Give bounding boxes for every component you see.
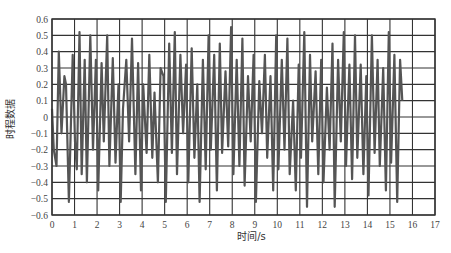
- x-tick-label: 2: [95, 220, 100, 230]
- x-tick-label: 11: [295, 220, 304, 230]
- x-tick-label: 10: [273, 220, 283, 230]
- x-tick-label: 5: [162, 220, 167, 230]
- x-tick-label: 13: [340, 220, 350, 230]
- y-tick-label: 0: [43, 113, 48, 123]
- x-tick-label: 14: [363, 220, 373, 230]
- y-tick-label: −0.1: [31, 129, 48, 139]
- y-tick-label: 0.6: [36, 15, 48, 25]
- y-axis-label: 时程数据: [4, 99, 16, 139]
- x-tick-label: 6: [185, 220, 190, 230]
- y-tick-label: 0.2: [36, 80, 48, 90]
- x-tick-label: 9: [252, 220, 257, 230]
- y-tick-label: 0.3: [36, 64, 48, 74]
- y-tick-label: −0.2: [31, 145, 48, 155]
- y-tick-label: −0.6: [31, 211, 48, 221]
- x-axis-label: 时间/s: [237, 230, 266, 242]
- x-tick-label: 7: [207, 220, 212, 230]
- x-axis-tick-labels: 01234567891011121314151617: [50, 220, 440, 230]
- y-tick-label: 0.5: [36, 31, 48, 41]
- x-tick-label: 17: [430, 220, 440, 230]
- y-tick-label: −0.5: [31, 194, 48, 204]
- x-tick-label: 1: [72, 220, 77, 230]
- x-tick-label: 4: [140, 220, 145, 230]
- y-axis-tick-labels: −0.6−0.5−0.4−0.3−0.2−0.100.10.20.30.40.5…: [31, 15, 48, 221]
- y-tick-label: 0.4: [36, 47, 48, 57]
- x-tick-label: 12: [318, 220, 328, 230]
- x-tick-label: 0: [50, 220, 55, 230]
- x-tick-label: 8: [230, 220, 235, 230]
- x-tick-label: 3: [117, 220, 122, 230]
- data-series-line: [52, 27, 402, 207]
- y-tick-label: 0.1: [36, 96, 48, 106]
- y-tick-label: −0.3: [31, 162, 48, 172]
- y-tick-label: −0.4: [31, 178, 48, 188]
- x-tick-label: 16: [408, 220, 418, 230]
- time-history-chart: −0.6−0.5−0.4−0.3−0.2−0.100.10.20.30.40.5…: [0, 0, 451, 253]
- x-tick-label: 15: [385, 220, 395, 230]
